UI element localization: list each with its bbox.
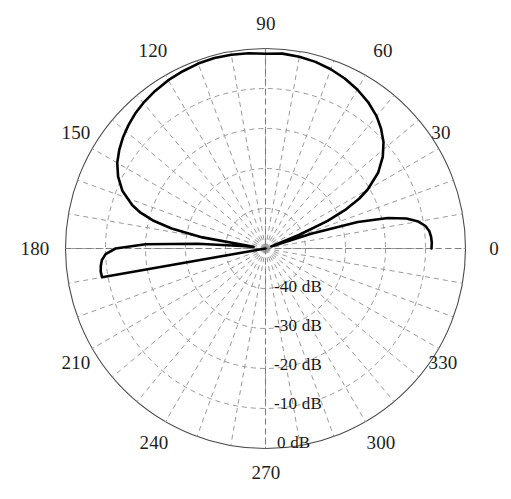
radial-label-10-db: -10 dB — [274, 394, 322, 414]
angle-label-330: 330 — [428, 352, 457, 374]
radial-label-0-db: 0 dB — [277, 433, 310, 453]
angle-label-30: 30 — [431, 122, 450, 144]
polar-chart-figure: 0306090120150180210240270300330 -40 dB-3… — [0, 0, 511, 499]
angle-label-300: 300 — [366, 432, 395, 454]
angle-label-210: 210 — [61, 352, 90, 374]
angle-label-90: 90 — [256, 13, 275, 35]
angle-label-0: 0 — [489, 238, 499, 260]
angle-label-60: 60 — [373, 40, 392, 62]
angle-label-120: 120 — [138, 40, 167, 62]
angle-label-150: 150 — [61, 122, 90, 144]
angle-label-270: 270 — [251, 462, 280, 484]
radial-label-30-db: -30 dB — [274, 316, 322, 336]
angle-label-240: 240 — [139, 432, 168, 454]
angle-label-180: 180 — [20, 238, 49, 260]
radial-label-40-db: -40 dB — [274, 277, 322, 297]
polar-plot-canvas — [0, 0, 511, 499]
radial-label-20-db: -20 dB — [274, 355, 322, 375]
